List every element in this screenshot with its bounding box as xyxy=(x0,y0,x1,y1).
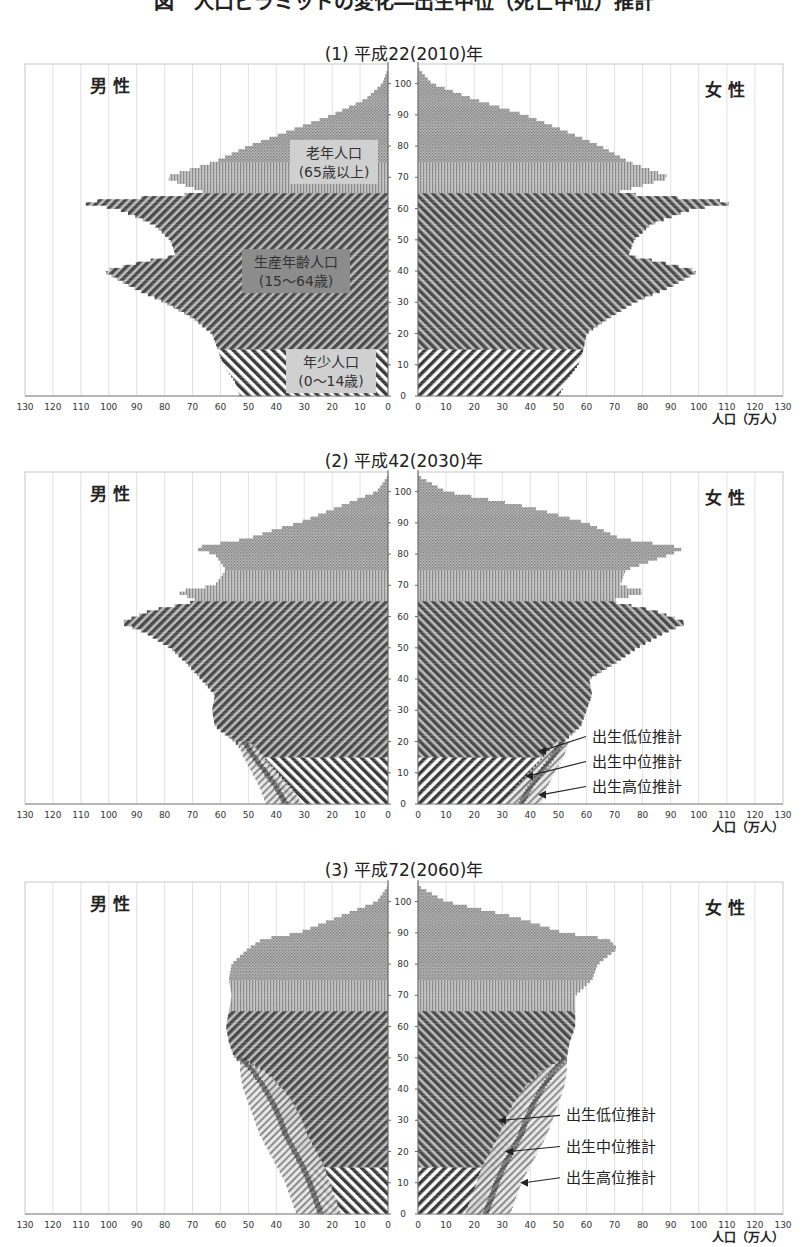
svg-text:70: 70 xyxy=(609,1220,621,1230)
svg-text:30: 30 xyxy=(497,402,509,412)
svg-text:90: 90 xyxy=(131,810,143,820)
svg-text:100: 100 xyxy=(690,1220,707,1230)
page-title: 図 人口ピラミッドの変化―出生中位（死亡中位）推計 xyxy=(0,0,808,15)
svg-text:90: 90 xyxy=(665,402,677,412)
svg-text:70: 70 xyxy=(397,580,409,590)
svg-text:20: 20 xyxy=(326,1220,338,1230)
svg-text:生産年齢人口: 生産年齢人口 xyxy=(254,254,338,270)
svg-text:20: 20 xyxy=(468,402,480,412)
female-label: 女 性 xyxy=(705,898,745,918)
svg-text:100: 100 xyxy=(100,810,117,820)
svg-text:130: 130 xyxy=(16,402,33,412)
svg-text:50: 50 xyxy=(553,402,565,412)
svg-text:130: 130 xyxy=(774,810,791,820)
svg-text:130: 130 xyxy=(16,810,33,820)
svg-text:120: 120 xyxy=(44,1220,61,1230)
svg-text:出生中位推計: 出生中位推計 xyxy=(566,1138,656,1156)
svg-text:0: 0 xyxy=(400,391,406,401)
svg-text:40: 40 xyxy=(525,1220,537,1230)
svg-text:110: 110 xyxy=(72,810,89,820)
svg-text:70: 70 xyxy=(187,1220,199,1230)
svg-text:30: 30 xyxy=(397,1115,409,1125)
svg-text:40: 40 xyxy=(525,402,537,412)
svg-text:老年人口: 老年人口 xyxy=(306,145,362,161)
svg-text:0: 0 xyxy=(385,810,391,820)
svg-text:100: 100 xyxy=(690,402,707,412)
svg-text:10: 10 xyxy=(354,402,366,412)
svg-text:80: 80 xyxy=(159,810,171,820)
svg-text:70: 70 xyxy=(187,810,199,820)
svg-text:20: 20 xyxy=(326,402,338,412)
svg-text:20: 20 xyxy=(468,810,480,820)
pyramid-chart-2010: 1301201101009080706050403020100010203040… xyxy=(0,60,808,470)
svg-text:60: 60 xyxy=(215,1220,227,1230)
svg-text:50: 50 xyxy=(397,1053,409,1063)
svg-text:出生中位推計: 出生中位推計 xyxy=(592,753,682,771)
svg-text:70: 70 xyxy=(609,402,621,412)
svg-text:70: 70 xyxy=(609,810,621,820)
svg-text:90: 90 xyxy=(665,810,677,820)
svg-text:80: 80 xyxy=(397,141,409,151)
svg-text:人口（万人）: 人口（万人） xyxy=(712,1230,784,1245)
svg-text:0: 0 xyxy=(415,1220,421,1230)
svg-text:0: 0 xyxy=(385,1220,391,1230)
svg-text:0: 0 xyxy=(385,402,391,412)
svg-text:120: 120 xyxy=(746,1220,763,1230)
svg-text:110: 110 xyxy=(72,402,89,412)
svg-text:80: 80 xyxy=(637,402,649,412)
svg-text:10: 10 xyxy=(397,360,409,370)
svg-text:120: 120 xyxy=(746,402,763,412)
svg-text:60: 60 xyxy=(397,204,409,214)
male-label: 男 性 xyxy=(90,894,130,914)
svg-text:50: 50 xyxy=(397,235,409,245)
svg-text:60: 60 xyxy=(581,1220,593,1230)
svg-text:70: 70 xyxy=(397,172,409,182)
svg-text:110: 110 xyxy=(718,810,735,820)
svg-text:10: 10 xyxy=(397,768,409,778)
svg-text:90: 90 xyxy=(131,402,143,412)
svg-text:10: 10 xyxy=(440,402,452,412)
svg-text:(0〜14歳): (0〜14歳) xyxy=(298,373,364,389)
svg-text:50: 50 xyxy=(243,402,255,412)
svg-text:90: 90 xyxy=(397,110,409,120)
svg-text:80: 80 xyxy=(159,1220,171,1230)
svg-text:60: 60 xyxy=(215,402,227,412)
svg-text:60: 60 xyxy=(397,612,409,622)
svg-text:出生高位推計: 出生高位推計 xyxy=(592,778,682,796)
svg-text:10: 10 xyxy=(440,1220,452,1230)
svg-text:年少人口: 年少人口 xyxy=(303,354,359,370)
svg-text:0: 0 xyxy=(400,799,406,809)
svg-text:40: 40 xyxy=(397,674,409,684)
svg-text:人口（万人）: 人口（万人） xyxy=(712,412,784,427)
svg-text:出生高位推計: 出生高位推計 xyxy=(566,1169,656,1187)
svg-text:0: 0 xyxy=(415,402,421,412)
svg-text:80: 80 xyxy=(637,810,649,820)
svg-text:80: 80 xyxy=(159,402,171,412)
svg-text:30: 30 xyxy=(299,810,311,820)
svg-text:120: 120 xyxy=(44,402,61,412)
svg-text:30: 30 xyxy=(299,402,311,412)
pyramid-chart-2030: 1301201101009080706050403020100010203040… xyxy=(0,468,808,878)
svg-text:60: 60 xyxy=(215,810,227,820)
svg-text:100: 100 xyxy=(394,897,411,907)
svg-text:10: 10 xyxy=(354,810,366,820)
svg-text:(65歳以上): (65歳以上) xyxy=(299,164,370,180)
svg-text:10: 10 xyxy=(354,1220,366,1230)
svg-text:40: 40 xyxy=(271,810,283,820)
male-label: 男 性 xyxy=(90,76,130,96)
svg-text:40: 40 xyxy=(525,810,537,820)
svg-text:90: 90 xyxy=(665,1220,677,1230)
svg-text:40: 40 xyxy=(397,266,409,276)
svg-text:50: 50 xyxy=(243,810,255,820)
svg-text:100: 100 xyxy=(394,487,411,497)
svg-text:50: 50 xyxy=(553,810,565,820)
svg-text:90: 90 xyxy=(131,1220,143,1230)
svg-text:90: 90 xyxy=(397,518,409,528)
svg-text:40: 40 xyxy=(271,402,283,412)
svg-text:(15〜64歳): (15〜64歳) xyxy=(259,273,334,289)
svg-text:出生低位推計: 出生低位推計 xyxy=(592,728,682,746)
svg-text:30: 30 xyxy=(397,297,409,307)
male-label: 男 性 xyxy=(90,484,130,504)
svg-text:90: 90 xyxy=(397,928,409,938)
svg-text:30: 30 xyxy=(497,1220,509,1230)
